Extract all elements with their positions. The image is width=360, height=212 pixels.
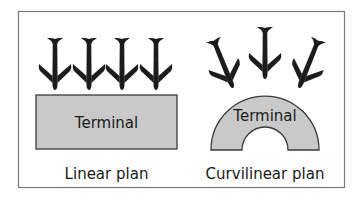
curvilinear-terminal-label: Terminal bbox=[232, 107, 296, 125]
linear-plan-caption: Linear plan bbox=[65, 165, 149, 183]
linear-terminal-label: Terminal bbox=[74, 114, 138, 132]
curvilinear-plan-caption: Curvilinear plan bbox=[206, 165, 325, 183]
terminal-plans-diagram: Terminal Linear plan Terminal Curvilinea… bbox=[0, 0, 360, 212]
